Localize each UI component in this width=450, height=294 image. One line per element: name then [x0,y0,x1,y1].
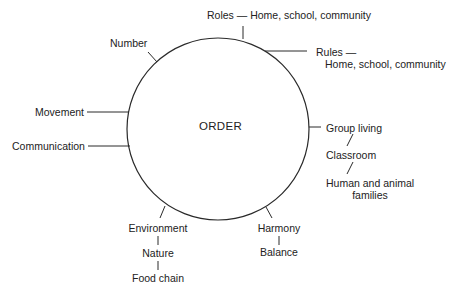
order-concept-web: ORDER Roles — Home, school, community Nu… [0,0,450,294]
movement-label: Movement [35,106,84,118]
environment-connector [160,206,165,218]
harmony-connector [266,207,272,218]
rules-label: Rules — [316,46,356,58]
roles-label: Roles — Home, school, community [207,9,371,21]
number-connector [148,52,157,62]
number-label: Number [110,37,147,49]
environment-label: Environment [118,222,198,234]
rules-sublabel: Home, school, community [325,58,446,70]
human-animal-label: Human and animal [326,177,414,189]
families-connector [347,162,353,174]
nature-label: Nature [118,247,198,259]
communication-label: Communication [12,140,85,152]
harmony-label: Harmony [249,222,309,234]
balance-label: Balance [249,246,309,258]
center-label: ORDER [199,120,242,132]
classroom-connector [347,134,353,146]
food-chain-label: Food chain [118,272,198,284]
families-label: families [326,189,414,201]
group-living-label: Group living [326,122,382,134]
classroom-label: Classroom [326,149,376,161]
